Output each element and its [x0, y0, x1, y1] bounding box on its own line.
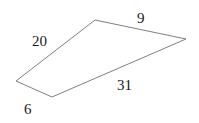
- side-length-label-long: 31: [117, 78, 132, 93]
- side-length-label-left: 20: [32, 34, 47, 49]
- quadrilateral-figure: 20 9 31 6: [0, 0, 199, 123]
- side-length-label-top: 9: [137, 11, 145, 26]
- side-length-label-bottom: 6: [24, 102, 32, 117]
- quadrilateral-outline: [16, 20, 186, 97]
